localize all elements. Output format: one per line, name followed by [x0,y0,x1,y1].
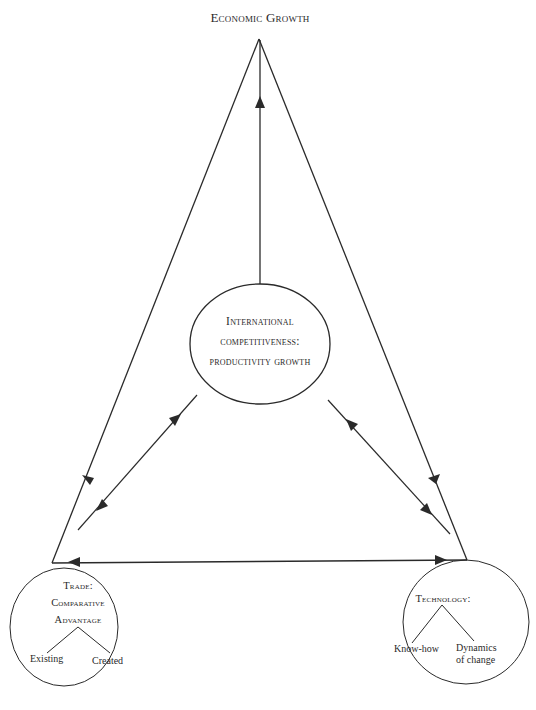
arrowhead-center-right-down [420,503,432,515]
arrowhead-bottom-left [68,557,80,567]
left-label-line-1: Trade: [28,577,128,594]
top-node-label: Economic Growth [198,10,322,26]
edge-top-to-left [0,0,259,563]
edge-center-to-right [328,400,450,534]
center-label-line-3: productivity growth [186,351,334,371]
left-child-created: Created [92,655,123,667]
right-node-tree-lines [412,605,474,643]
arrowhead-center-up [255,96,265,108]
left-child-existing: Existing [30,653,63,665]
left-label-line-2: Comparative [28,594,128,611]
right-child-dynamics-of-change: Dynamics of change [456,642,497,666]
left-node-tree-lines [47,627,110,653]
center-label-line-1: International [186,311,334,331]
right-node-label: Technology: [405,590,481,607]
arrowhead-top-right-down [428,474,440,484]
center-node-label: International competitiveness: productiv… [186,311,334,371]
left-node-label: Trade: Comparative Advantage [28,577,128,628]
center-label-line-2: competitiveness: [186,331,334,351]
right-child-line-1: Dynamics [456,642,497,654]
arrowhead-center-left-down [96,499,108,511]
edge-left-to-right [52,560,467,563]
arrowhead-center-right-up [346,419,358,431]
right-child-line-2: of change [456,654,497,666]
right-child-know-how: Know-how [394,643,439,655]
left-label-line-3: Advantage [28,611,128,628]
